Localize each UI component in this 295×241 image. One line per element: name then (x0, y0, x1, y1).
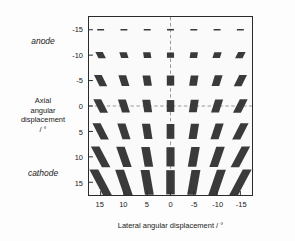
data-glyph (118, 75, 129, 86)
data-glyph (167, 100, 175, 112)
data-glyph (235, 52, 246, 58)
data-glyph (116, 147, 131, 167)
x-tick-label: -10 (212, 200, 223, 209)
data-glyph (232, 123, 248, 139)
data-glyph (237, 29, 244, 31)
data-glyph (166, 170, 174, 194)
data-glyph (188, 147, 200, 167)
data-glyph (120, 29, 127, 31)
x-tick-label: -5 (191, 200, 198, 209)
data-glyph (167, 29, 174, 31)
data-glyph (187, 170, 200, 195)
data-glyph (97, 29, 104, 31)
data-glyph (190, 52, 198, 58)
data-glyph (143, 52, 151, 58)
y-tick-label: 10 (75, 153, 83, 162)
x-tick-label: 10 (119, 200, 127, 209)
data-glyph (167, 76, 174, 86)
data-glyph (212, 52, 221, 58)
data-glyph (117, 124, 130, 140)
data-glyph (141, 147, 153, 167)
data-glyph (212, 75, 223, 86)
data-glyph (189, 75, 198, 85)
x-axis-title: Lateral angular displacement / ° (88, 221, 253, 230)
plot-canvas (89, 17, 252, 195)
data-glyph (166, 147, 174, 166)
y-tick-label: -5 (76, 76, 83, 85)
data-glyph (190, 29, 197, 31)
y-tick-label: -15 (72, 24, 83, 33)
data-glyph (92, 123, 108, 139)
x-tick-label: 0 (168, 200, 172, 209)
y-tick-label: -10 (72, 50, 83, 59)
figure-container: anode cathode Axial angular displacement… (0, 0, 295, 241)
data-glyph (119, 52, 128, 58)
data-glyph (142, 100, 152, 112)
data-glyph (141, 170, 154, 195)
x-tick-label: -15 (236, 200, 247, 209)
data-glyph (144, 29, 151, 31)
data-glyph (231, 146, 251, 167)
data-glyph (167, 124, 175, 139)
data-glyph (94, 75, 107, 86)
data-glyph (189, 124, 200, 139)
y-tick-label: 0 (79, 102, 83, 111)
data-glyph (142, 124, 153, 139)
data-glyph (214, 29, 221, 31)
y-tick-label: 15 (75, 179, 83, 188)
x-axis-ticks: 151050-5-10-15 (88, 200, 253, 212)
y-tick-label: 5 (79, 127, 83, 136)
plot-area (88, 16, 253, 196)
data-glyph (209, 147, 224, 167)
data-glyph (167, 52, 174, 57)
data-glyph (210, 124, 223, 140)
data-glyph (234, 75, 247, 86)
x-tick-label: 15 (96, 200, 104, 209)
data-glyph (91, 146, 111, 167)
x-tick-label: 5 (145, 200, 149, 209)
y-axis-ticks: -15-10-5051015 (58, 16, 83, 196)
data-glyph (95, 52, 106, 58)
data-glyph (143, 75, 152, 85)
data-glyph (189, 100, 199, 112)
